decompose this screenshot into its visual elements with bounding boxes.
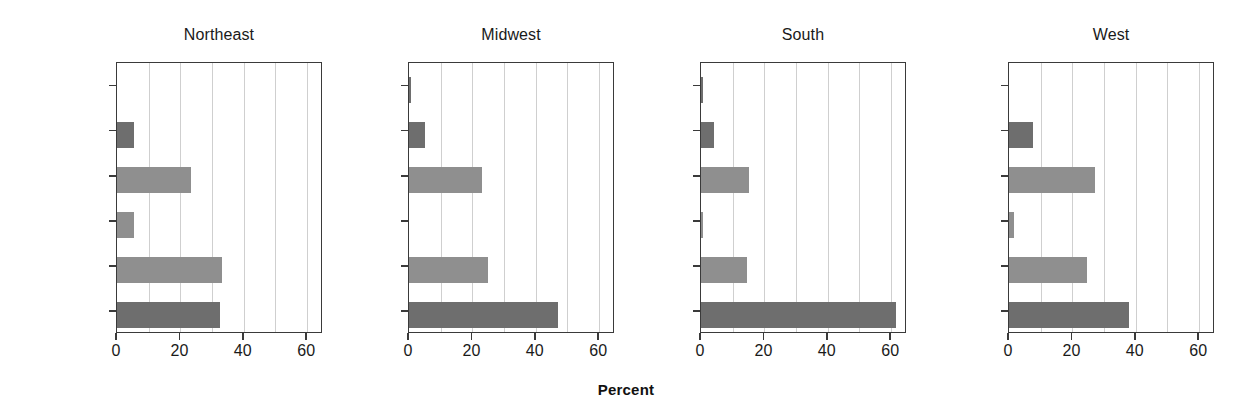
- y-tick-jewish: [693, 220, 700, 222]
- x-tick-0: [1007, 333, 1009, 340]
- gridline-x-10: [733, 63, 734, 332]
- x-tick-20: [763, 333, 765, 340]
- bar-west-jewish: [1009, 212, 1014, 238]
- x-tick-20: [471, 333, 473, 340]
- y-tick-jewish: [109, 220, 116, 222]
- x-tick-20: [179, 333, 181, 340]
- x-axis-title: Percent: [0, 381, 1252, 398]
- x-tick-label-20: 20: [170, 342, 188, 360]
- y-tick-other: [401, 130, 408, 132]
- trellis-bar-chart-figure: NortheastProtestantCatholicJewishNoneOth…: [0, 0, 1252, 418]
- bar-west-protestant: [1009, 302, 1129, 328]
- gridline-x-20: [472, 63, 473, 332]
- bar-south-na: [701, 77, 703, 103]
- bar-south-jewish: [701, 212, 703, 238]
- y-tick-catholic: [693, 265, 700, 267]
- x-tick-40: [242, 333, 244, 340]
- plot-area: [1008, 62, 1214, 333]
- y-tick-jewish: [401, 220, 408, 222]
- bar-midwest-protestant: [409, 302, 558, 328]
- x-tick-label-40: 40: [1126, 342, 1144, 360]
- y-tick-protestant: [109, 310, 116, 312]
- y-tick-catholic: [1001, 265, 1008, 267]
- y-tick-protestant: [401, 310, 408, 312]
- bar-midwest-catholic: [409, 257, 488, 283]
- gridline-x-30: [212, 63, 213, 332]
- x-tick-40: [534, 333, 536, 340]
- x-tick-label-40: 40: [818, 342, 836, 360]
- x-tick-20: [1071, 333, 1073, 340]
- bar-south-catholic: [701, 257, 747, 283]
- x-tick-label-20: 20: [1062, 342, 1080, 360]
- bar-northeast-none: [117, 167, 191, 193]
- gridline-x-50: [275, 63, 276, 332]
- x-tick-label-0: 0: [404, 342, 413, 360]
- x-tick-40: [826, 333, 828, 340]
- bar-northeast-jewish: [117, 212, 134, 238]
- bar-midwest-other: [409, 122, 425, 148]
- bar-northeast-protestant: [117, 302, 220, 328]
- x-tick-0: [407, 333, 409, 340]
- x-tick-label-0: 0: [1004, 342, 1013, 360]
- x-tick-label-20: 20: [462, 342, 480, 360]
- gridline-x-10: [1041, 63, 1042, 332]
- gridline-x-40: [828, 63, 829, 332]
- gridline-x-20: [1072, 63, 1073, 332]
- x-tick-label-0: 0: [696, 342, 705, 360]
- x-tick-0: [115, 333, 117, 340]
- x-tick-40: [1134, 333, 1136, 340]
- y-tick-other: [1001, 130, 1008, 132]
- gridline-x-60: [1199, 63, 1200, 332]
- gridline-x-10: [149, 63, 150, 332]
- gridline-x-20: [180, 63, 181, 332]
- y-tick-na: [109, 85, 116, 87]
- bar-west-other: [1009, 122, 1033, 148]
- y-tick-other: [109, 130, 116, 132]
- x-tick-label-20: 20: [754, 342, 772, 360]
- x-tick-label-0: 0: [112, 342, 121, 360]
- gridline-x-50: [1167, 63, 1168, 332]
- gridline-x-30: [1104, 63, 1105, 332]
- y-tick-other: [693, 130, 700, 132]
- gridline-x-40: [244, 63, 245, 332]
- y-tick-none: [109, 175, 116, 177]
- bar-west-none: [1009, 167, 1095, 193]
- bar-midwest-none: [409, 167, 482, 193]
- y-tick-na: [1001, 85, 1008, 87]
- x-tick-label-40: 40: [234, 342, 252, 360]
- y-tick-na: [401, 85, 408, 87]
- bar-south-other: [701, 122, 714, 148]
- bar-northeast-other: [117, 122, 134, 148]
- x-tick-label-40: 40: [526, 342, 544, 360]
- gridline-x-40: [536, 63, 537, 332]
- y-tick-catholic: [401, 265, 408, 267]
- y-tick-none: [1001, 175, 1008, 177]
- bar-northeast-catholic: [117, 257, 222, 283]
- y-tick-jewish: [1001, 220, 1008, 222]
- gridline-x-30: [504, 63, 505, 332]
- bar-west-catholic: [1009, 257, 1087, 283]
- y-tick-none: [401, 175, 408, 177]
- gridline-x-10: [441, 63, 442, 332]
- bar-south-none: [701, 167, 749, 193]
- gridline-x-30: [796, 63, 797, 332]
- gridline-x-20: [764, 63, 765, 332]
- x-tick-60: [1197, 333, 1199, 340]
- y-tick-protestant: [1001, 310, 1008, 312]
- panel-west: West0204060: [856, 0, 1252, 418]
- y-tick-none: [693, 175, 700, 177]
- gridline-x-40: [1136, 63, 1137, 332]
- y-tick-protestant: [693, 310, 700, 312]
- y-tick-catholic: [109, 265, 116, 267]
- x-tick-label-60: 60: [1189, 342, 1207, 360]
- x-tick-0: [699, 333, 701, 340]
- y-tick-na: [693, 85, 700, 87]
- bar-midwest-na: [409, 77, 411, 103]
- panel-title: West: [1008, 26, 1214, 44]
